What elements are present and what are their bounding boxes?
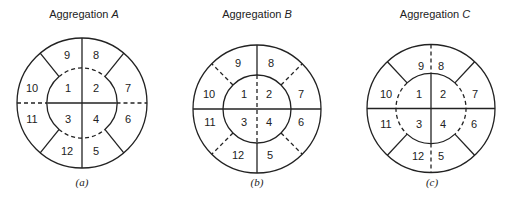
region-8: 8: [438, 60, 444, 72]
region-9: 9: [418, 60, 424, 72]
diagonal-sw: [212, 133, 233, 154]
region-5: 5: [267, 149, 273, 161]
region-2: 2: [93, 82, 99, 94]
region-7: 7: [125, 82, 131, 94]
diagonal-se: [105, 129, 124, 152]
region-2: 2: [266, 88, 272, 100]
diagonal-nw: [212, 64, 233, 85]
panel-a-caption: (a): [76, 176, 89, 189]
diagonal-ne: [455, 62, 475, 83]
panel-c-caption: (c): [426, 176, 439, 189]
region-5: 5: [93, 145, 99, 157]
region-11: 11: [26, 113, 37, 125]
panel-b-caption: (b): [251, 176, 264, 189]
region-3: 3: [241, 116, 247, 128]
diagonal-sw: [387, 134, 407, 155]
region-1: 1: [65, 82, 71, 94]
region-4: 4: [93, 113, 99, 125]
aggregation-diagrams: Aggregation A 1 2 3 4 5 6 7 8 9 10 11 12…: [0, 0, 514, 199]
region-3: 3: [65, 113, 71, 125]
region-4: 4: [266, 116, 272, 128]
region-10: 10: [380, 88, 392, 100]
region-7: 7: [298, 88, 304, 100]
panel-a: Aggregation A 1 2 3 4 5 6 7 8 9 10 11 12…: [17, 8, 147, 189]
diagonal-ne: [105, 53, 124, 76]
region-5: 5: [438, 150, 444, 162]
panel-c-title: Aggregation C: [400, 8, 470, 20]
region-2: 2: [440, 88, 446, 100]
region-7: 7: [472, 88, 478, 100]
region-12: 12: [412, 150, 424, 162]
region-9: 9: [64, 49, 70, 61]
region-1: 1: [241, 88, 247, 100]
panel-c: Aggregation C 1 2 3 4 5 6 7 8 9 10 11 12…: [367, 8, 495, 189]
region-6: 6: [298, 116, 304, 128]
panel-b: Aggregation B 1 2 3 4 5 6 7 8 9 10 11 12…: [193, 8, 321, 189]
region-10: 10: [203, 88, 215, 100]
region-12: 12: [61, 145, 73, 157]
diagonal-nw: [387, 62, 407, 83]
diagonal-ne: [281, 64, 302, 85]
region-8: 8: [268, 57, 274, 69]
region-10: 10: [26, 82, 38, 94]
region-1: 1: [416, 88, 422, 100]
diagonal-nw: [40, 53, 59, 76]
diagonal-se: [281, 133, 302, 154]
diagonal-se: [455, 134, 475, 155]
region-9: 9: [235, 57, 241, 69]
region-6: 6: [471, 118, 477, 130]
region-11: 11: [204, 116, 215, 128]
diagonal-sw: [40, 129, 59, 152]
region-3: 3: [416, 118, 422, 130]
region-12: 12: [232, 149, 244, 161]
region-4: 4: [440, 118, 446, 130]
panel-a-title: Aggregation A: [49, 8, 119, 20]
region-6: 6: [125, 113, 131, 125]
region-8: 8: [93, 49, 99, 61]
panel-b-title: Aggregation B: [222, 8, 292, 20]
region-11: 11: [380, 118, 391, 130]
